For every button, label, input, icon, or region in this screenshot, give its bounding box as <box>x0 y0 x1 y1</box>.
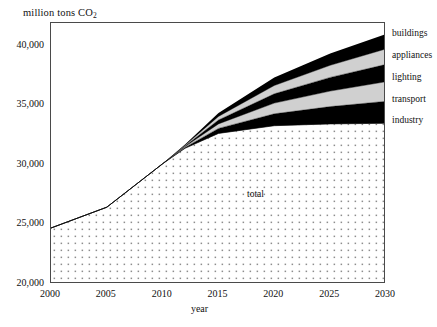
y-tick-label-20000: 20,000 <box>0 277 44 288</box>
x-tick-label-2010: 2010 <box>137 288 187 299</box>
plot-svg <box>51 23 385 283</box>
plot-area: total <box>50 22 385 283</box>
series-label-industry: industry <box>392 115 423 125</box>
series-label-buildings: buildings <box>392 28 427 38</box>
x-tick-label-2025: 2025 <box>304 288 354 299</box>
x-tick-label-2015: 2015 <box>193 288 243 299</box>
total-annotation-label: total <box>247 189 264 199</box>
y-tick-label-30000: 30,000 <box>0 158 44 169</box>
series-label-lighting: lighting <box>392 72 422 82</box>
y-tick-label-40000: 40,000 <box>0 39 44 50</box>
x-tick-label-2020: 2020 <box>248 288 298 299</box>
y-axis-title-text: million tons CO <box>23 7 93 18</box>
series-label-appliances: appliances <box>392 50 432 60</box>
x-tick-label-2030: 2030 <box>360 288 410 299</box>
x-axis-title: year <box>0 303 437 314</box>
series-area-total <box>51 123 385 283</box>
series-label-transport: transport <box>392 94 426 104</box>
co2-stacked-area-chart: million tons CO2 40,000 35,000 30,000 25… <box>0 0 437 327</box>
y-tick-label-35000: 35,000 <box>0 98 44 109</box>
y-axis-title: million tons CO2 <box>23 7 97 20</box>
y-axis-title-subscript: 2 <box>93 11 97 20</box>
x-tick-label-2000: 2000 <box>25 288 75 299</box>
x-tick-label-2005: 2005 <box>81 288 131 299</box>
y-tick-label-25000: 25,000 <box>0 217 44 228</box>
x-axis-title-text: year <box>191 303 208 314</box>
